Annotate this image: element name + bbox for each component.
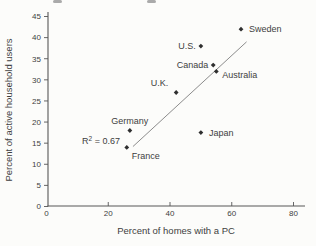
x-tick-label: 0 — [44, 209, 49, 218]
data-points: SwedenU.S.CanadaAustraliaU.K.GermanyJapa… — [111, 24, 281, 161]
point-label-germany: Germany — [111, 116, 149, 126]
x-tick-label: 80 — [289, 209, 298, 218]
y-tick-label: 30 — [32, 76, 41, 85]
y-tick-label: 15 — [32, 139, 41, 148]
x-tick-label: 60 — [227, 209, 236, 218]
data-point-uk — [174, 90, 179, 95]
point-label-canada: Canada — [177, 60, 209, 70]
y-tick-label: 35 — [32, 55, 41, 64]
y-tick-label: 5 — [37, 181, 42, 190]
data-point-us — [198, 44, 203, 49]
y-tick-label: 0 — [37, 202, 42, 211]
y-axis-title: Percent of active household users — [3, 38, 14, 181]
x-axis-ticks: 020406080 — [44, 202, 298, 218]
data-point-japan — [198, 130, 203, 135]
x-tick-label: 20 — [104, 209, 113, 218]
y-tick-label: 10 — [32, 160, 41, 169]
scatter-plot: 051015202530354045 020406080 SwedenU.S.C… — [0, 0, 316, 246]
point-label-france: France — [132, 151, 160, 161]
point-label-us: U.S. — [178, 41, 196, 51]
data-point-australia — [214, 69, 219, 74]
point-label-japan: Japan — [209, 128, 234, 138]
point-label-sweden: Sweden — [249, 24, 282, 34]
x-tick-label: 40 — [166, 209, 175, 218]
y-axis-ticks: 051015202530354045 — [32, 12, 48, 211]
cropped-text-artifact — [53, 0, 62, 3]
data-point-canada — [211, 63, 216, 68]
y-tick-label: 45 — [32, 12, 41, 21]
point-label-uk: U.K. — [151, 78, 169, 88]
x-axis-title: Percent of homes with a PC — [117, 225, 235, 236]
y-tick-label: 20 — [32, 118, 41, 127]
data-point-germany — [127, 128, 132, 133]
point-label-australia: Australia — [222, 70, 257, 80]
y-tick-label: 25 — [32, 97, 41, 106]
r-squared-annotation: R2 = 0.67 — [82, 135, 120, 147]
data-point-france — [124, 145, 129, 150]
cropped-text-artifact — [147, 0, 156, 3]
data-point-sweden — [239, 27, 244, 32]
y-tick-label: 40 — [32, 33, 41, 42]
